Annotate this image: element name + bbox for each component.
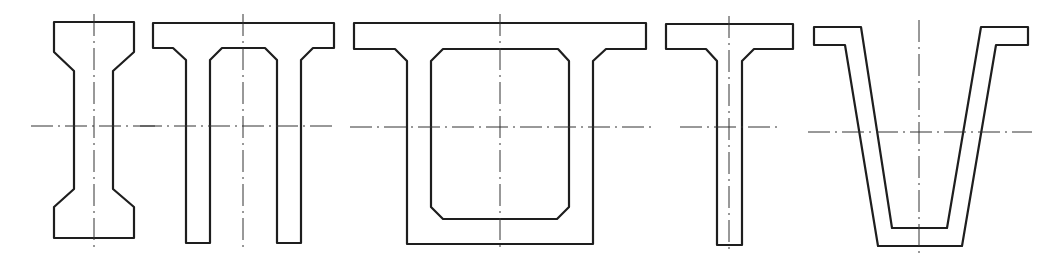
trough-section-outline xyxy=(814,27,1028,246)
i-section xyxy=(31,14,156,248)
cross-section-drawing xyxy=(0,0,1062,272)
double-t-section xyxy=(140,14,335,248)
t-section xyxy=(666,16,793,250)
trough-section xyxy=(808,20,1032,253)
box-section xyxy=(350,14,652,248)
